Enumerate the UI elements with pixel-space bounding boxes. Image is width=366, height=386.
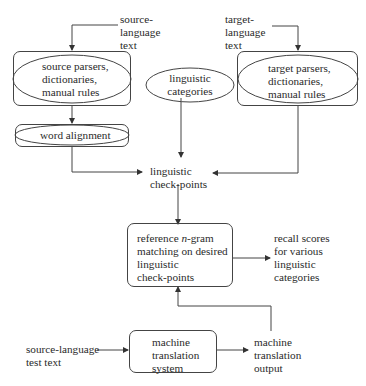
recall-scores-label: recall scores for various linguistic cat…: [274, 232, 330, 284]
reference-prefix: reference: [137, 232, 181, 244]
target-language-text-label: target- language text: [225, 13, 265, 52]
linguistic-checkpoints-label: linguistic check-points: [150, 165, 207, 191]
source-language-test-text-label: source-language test text: [26, 343, 99, 369]
linguistic-categories-label: linguistic categories: [150, 72, 230, 98]
source-language-text-label: source- language text: [120, 13, 160, 52]
target-parsers-label: target parsers, dictionaries, manual rul…: [268, 62, 331, 101]
source-parsers-label: source parsers, dictionaries, manual rul…: [42, 60, 108, 99]
reference-matching-label: reference n-gram matching on desired lin…: [137, 232, 228, 284]
word-alignment-label: word alignment: [40, 129, 111, 142]
mt-system-label: machine translation system: [152, 336, 199, 375]
mt-output-label: machine translation output: [254, 336, 301, 375]
